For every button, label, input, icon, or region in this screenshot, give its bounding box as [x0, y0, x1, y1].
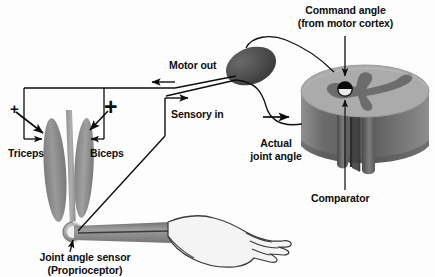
joint-angle-sensor-label: Joint angle sensor (Proprioceptor)	[15, 251, 155, 276]
triceps-label: Triceps	[8, 147, 44, 160]
joint-sensor-line2: (Proprioceptor)	[48, 264, 123, 276]
biceps-label: Biceps	[90, 147, 124, 160]
spinal-cord-cylinder	[301, 65, 429, 174]
biceps-muscle	[72, 118, 96, 219]
actual-joint-angle-label: Actual joint angle	[238, 137, 314, 162]
joint-sensor-line1: Joint angle sensor	[40, 251, 131, 263]
motor-out-pathway	[24, 76, 236, 88]
motor-out-label: Motor out	[169, 59, 217, 72]
actual-joint-angle-line1: Actual	[260, 137, 292, 149]
comparator-label: Comparator	[311, 192, 370, 205]
actual-angle-pathway-curve	[236, 80, 302, 125]
command-angle-label: Command angle (from motor cortex)	[288, 4, 403, 29]
plus-sign-biceps: +	[104, 96, 117, 119]
command-angle-line1: Command angle	[305, 4, 385, 16]
forearm	[74, 222, 172, 243]
diagram-artwork	[0, 0, 435, 277]
plus-sign-triceps: +	[10, 101, 19, 116]
hand	[168, 216, 291, 267]
diagram-canvas: Command angle (from motor cortex) Motor …	[0, 0, 435, 277]
actual-joint-angle-line2: joint angle	[250, 150, 301, 162]
command-angle-line2: (from motor cortex)	[298, 17, 394, 29]
triceps-muscle	[40, 117, 69, 222]
comparator-node	[338, 82, 352, 96]
triceps-drive-wire	[16, 88, 43, 139]
sensory-in-label: Sensory in	[171, 108, 224, 121]
